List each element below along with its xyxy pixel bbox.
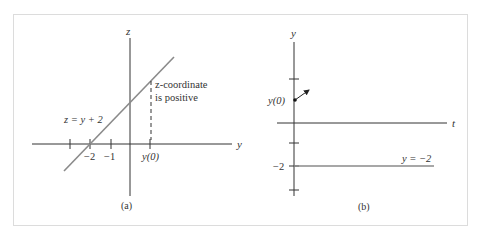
panel-a-z-label: z: [125, 25, 131, 37]
figure-canvas: z y z = y + 2 −2 −1 y(0) z-coordinate is…: [0, 0, 483, 237]
panel-a-line-label: z = y + 2: [63, 114, 103, 125]
panel-b-t-label: t: [452, 117, 456, 129]
panel-b: y t y(0) −2 y = −2 (b): [267, 27, 456, 213]
panel-a-tick-label-minus1: −1: [104, 151, 115, 162]
panel-b-y0-label: y(0): [267, 95, 285, 107]
panel-b-tick-label-minus2: −2: [273, 161, 284, 172]
panel-a-y-label: y: [236, 138, 242, 150]
panel-b-slope-arrow: [295, 90, 309, 100]
panel-b-line-label: y = −2: [401, 153, 432, 164]
panel-a-caption: (a): [121, 200, 132, 212]
panel-a-annotation-line2: is positive: [155, 92, 198, 103]
panel-a-y0-label: y(0): [141, 151, 159, 163]
panel-b-caption: (b): [358, 201, 370, 213]
panel-a-tick-label-minus2: −2: [84, 151, 95, 162]
panel-a-annotation-line1: z-coordinate: [155, 79, 208, 90]
panel-b-y-label: y: [290, 27, 296, 39]
panel-a: z y z = y + 2 −2 −1 y(0) z-coordinate is…: [32, 25, 242, 212]
